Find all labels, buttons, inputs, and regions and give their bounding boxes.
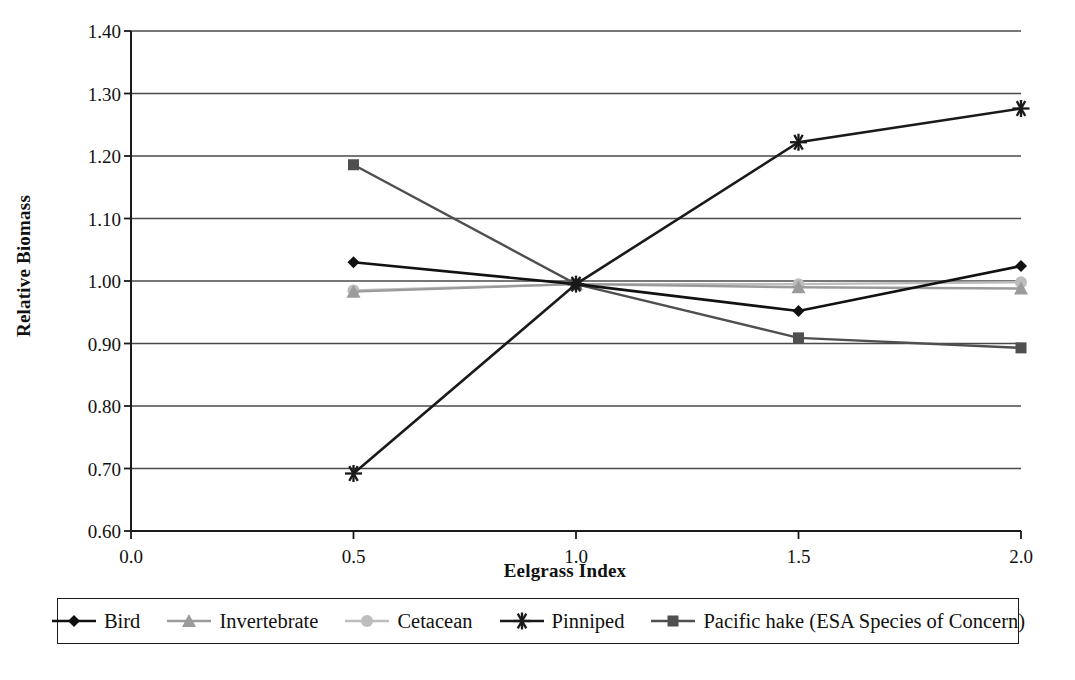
legend-label: Pinniped: [552, 611, 625, 632]
y-tick-label: 0.60: [55, 522, 121, 541]
x-axis-title: Eelgrass Index: [110, 560, 1020, 582]
legend-label: Bird: [104, 611, 140, 632]
legend-marker-triangle-icon: [166, 611, 212, 631]
chart-figure: 0.600.700.800.901.001.101.201.301.40 0.0…: [0, 0, 1075, 680]
legend-item[interactable]: Invertebrate: [166, 611, 318, 632]
y-tick-label: 0.90: [55, 334, 121, 353]
legend-marker-diamond-icon: [51, 611, 97, 631]
y-axis-title: Relative Biomass: [13, 166, 35, 366]
series-invertebrate: [347, 277, 1029, 298]
legend-label: Pacific hake (ESA Species of Concern): [703, 611, 1025, 632]
legend-marker-circle-icon: [344, 611, 390, 631]
legend-marker-asterisk-icon: [499, 611, 545, 631]
y-tick-label: 1.20: [55, 147, 121, 166]
y-tick-label: 1.10: [55, 209, 121, 228]
y-tick-label: 1.30: [55, 84, 121, 103]
series-pacific: [348, 159, 1027, 353]
legend-marker-square-icon: [650, 611, 696, 631]
series-pinniped: [345, 100, 1030, 482]
legend-item[interactable]: Pacific hake (ESA Species of Concern): [650, 611, 1025, 632]
legend-item[interactable]: Pinniped: [499, 611, 625, 632]
legend-label: Invertebrate: [219, 611, 318, 632]
y-tick-label: 0.80: [55, 397, 121, 416]
y-tick-label: 1.00: [55, 272, 121, 291]
chart-svg: [0, 0, 1075, 600]
y-tick-label: 0.70: [55, 459, 121, 478]
series-layer: [345, 100, 1030, 482]
legend-item[interactable]: Cetacean: [344, 611, 472, 632]
legend-label: Cetacean: [397, 611, 472, 632]
legend-item[interactable]: Bird: [51, 611, 140, 632]
chart-legend: BirdInvertebrateCetaceanPinnipedPacific …: [57, 598, 1019, 644]
y-tick-label: 1.40: [55, 22, 121, 41]
plot-area: 0.600.700.800.901.001.101.201.301.40 0.0…: [0, 0, 1075, 600]
